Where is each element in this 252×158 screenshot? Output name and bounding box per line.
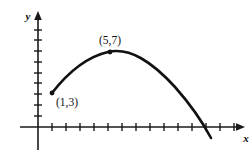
point-label-vertex: (5,7) <box>99 34 121 47</box>
y-axis-arrow-icon <box>34 11 42 20</box>
point-marker-vertex <box>108 50 113 55</box>
y-axis-label: y <box>24 10 31 22</box>
x-axis-arrow-icon <box>236 123 245 131</box>
x-axis-label: x <box>242 132 249 144</box>
point-marker-left-endpoint <box>50 91 55 96</box>
figure-container: y x (1,3) (5,7) <box>0 0 252 158</box>
coordinate-plot: y x (1,3) (5,7) <box>0 0 252 158</box>
point-label-left-endpoint: (1,3) <box>56 96 78 109</box>
parabola-curve <box>52 51 211 138</box>
